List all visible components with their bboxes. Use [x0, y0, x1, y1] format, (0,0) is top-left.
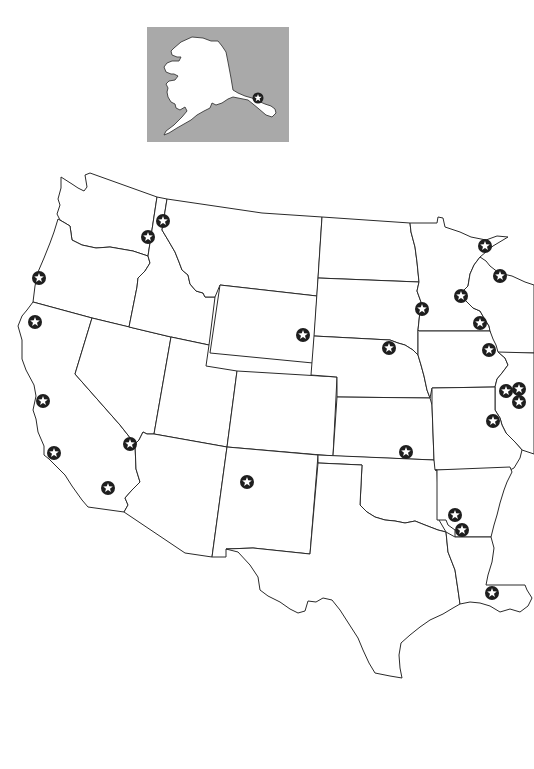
star-in-circle-icon	[454, 289, 468, 303]
star-in-circle-icon	[512, 382, 526, 396]
map-canvas	[0, 0, 534, 769]
star-in-circle-icon	[123, 437, 137, 451]
star-in-circle-icon	[28, 315, 42, 329]
star-in-circle-icon	[156, 214, 170, 228]
star-in-circle-icon	[382, 341, 396, 355]
state-wyoming	[210, 285, 317, 363]
state-kansas	[333, 397, 434, 460]
star-in-circle-icon	[32, 271, 46, 285]
star-in-circle-icon	[141, 230, 155, 244]
star-in-circle-icon	[399, 445, 413, 459]
state-north-dakota	[318, 217, 419, 282]
star-in-circle-icon	[448, 508, 462, 522]
star-in-circle-icon	[47, 446, 61, 460]
alaska-inset	[147, 27, 289, 142]
star-in-circle-icon	[512, 395, 526, 409]
star-in-circle-icon	[493, 269, 507, 283]
star-in-circle-icon	[415, 302, 429, 316]
star-in-circle-icon	[473, 316, 487, 330]
states-layer	[18, 173, 534, 678]
us-outline-map	[0, 0, 534, 769]
star-in-circle-icon	[485, 586, 499, 600]
state-arkansas	[435, 467, 512, 537]
inset-markers-layer	[253, 93, 264, 104]
star-in-circle-icon	[455, 523, 469, 537]
star-in-circle-icon	[478, 239, 492, 253]
state-new-mexico	[212, 447, 318, 557]
star-in-circle-icon	[296, 328, 310, 342]
star-in-circle-icon	[253, 93, 264, 104]
star-in-circle-icon	[499, 384, 513, 398]
star-in-circle-icon	[240, 475, 254, 489]
star-in-circle-icon	[101, 481, 115, 495]
state-colorado	[227, 371, 337, 456]
star-in-circle-icon	[482, 343, 496, 357]
star-in-circle-icon	[36, 394, 50, 408]
star-in-circle-icon	[486, 414, 500, 428]
state-arizona	[124, 432, 227, 557]
